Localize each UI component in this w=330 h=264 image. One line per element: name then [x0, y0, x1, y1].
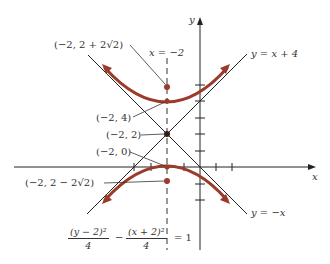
axis-of-symmetry-label: x = −2 — [149, 48, 184, 58]
equation-minus: − — [115, 232, 123, 243]
equation-equals: = 1 — [174, 232, 192, 243]
equation-term1-numerator: (y − 2)² — [68, 226, 109, 239]
vertex-lower-point — [165, 165, 170, 170]
vertex-upper-point — [165, 99, 170, 104]
y-axis-label: y — [189, 15, 195, 25]
equation-term2-denominator: 4 — [143, 239, 149, 251]
center-point — [164, 131, 170, 137]
focus-upper-point — [164, 84, 170, 90]
equation-term2-numerator: (x + 2)² — [126, 226, 167, 239]
focus-lower-label: (−2, 2 − 2√2) — [25, 178, 94, 188]
equation-term1: (y − 2)² 4 — [68, 226, 109, 251]
vertex-lower-label: (−2, 0) — [96, 147, 131, 157]
equation-term1-denominator: 4 — [85, 239, 91, 251]
focus-upper-label: (−2, 2 + 2√2) — [54, 40, 123, 50]
vertex-upper-label: (−2, 4) — [96, 113, 131, 123]
focus-lower-point — [164, 178, 170, 184]
x-axis-label: x — [312, 172, 318, 182]
asymptote-label-upper: y = x + 4 — [251, 49, 298, 59]
equation-term2: (x + 2)² 4 — [126, 226, 167, 251]
y-axis — [195, 17, 205, 250]
asymptote-label-lower: y = −x — [251, 208, 285, 218]
center-label: (−2, 2) — [106, 130, 141, 140]
hyperbola-figure — [0, 0, 330, 264]
